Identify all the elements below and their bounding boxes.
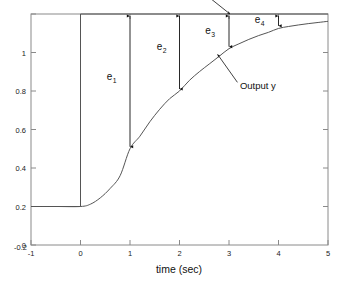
error-label-e4: e4 (255, 14, 265, 27)
x-tick-label-5: 5 (326, 249, 330, 258)
y-tick-label-0_8: 0.8 (16, 87, 26, 96)
x-tick-label-3: 3 (227, 249, 231, 258)
x-axis-ticks (31, 240, 328, 245)
y-tick-label-1: 1 (22, 49, 26, 58)
output-annotation-arrow (218, 54, 238, 82)
error-label-group: e1e2e3e4 (107, 14, 265, 84)
setpoint-annotation-arrow (211, 0, 230, 14)
error-label-e2: e2 (157, 41, 167, 54)
y-tick-label-minus-0-2: -0.2 (14, 243, 27, 252)
y-axis-ticks (31, 14, 36, 245)
error-label-e3: e3 (205, 25, 215, 38)
x-tick-label-1: 1 (128, 249, 132, 258)
x-tick-label-0: 0 (78, 249, 82, 258)
y-axis-ticks-right (323, 53, 328, 207)
output-annotation-label: Output y (240, 80, 276, 91)
y-tick-label-0_4: 0.4 (16, 164, 26, 173)
x-tick-label-2: 2 (177, 249, 181, 258)
x-axis-title: time (sec) (156, 263, 202, 275)
x-tick-label-4: 4 (276, 249, 280, 258)
figure-canvas: 1 0.8 0.6 0.4 0.2 0 -0.2 -0.2 -1 0 1 2 3… (0, 0, 347, 288)
control-response-chart: 1 0.8 0.6 0.4 0.2 0 -0.2 -0.2 -1 0 1 2 3… (0, 0, 347, 288)
error-label-e1: e1 (107, 71, 117, 84)
y-tick-label-0_6: 0.6 (16, 126, 26, 135)
annotation-arrow-group (211, 0, 238, 82)
x-tick-label-neg1: -1 (28, 249, 35, 258)
y-tick-label-0_2: 0.2 (16, 203, 26, 212)
